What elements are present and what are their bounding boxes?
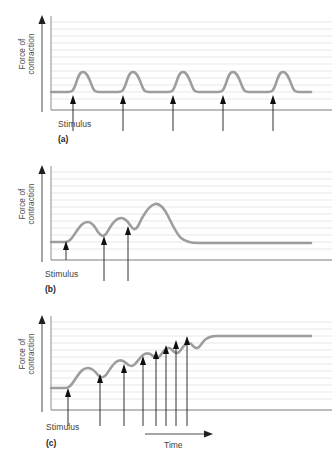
panel-c-plot bbox=[0, 300, 335, 458]
panel-b-wave-summation: Force of contraction Stimulus (b) bbox=[0, 150, 335, 300]
gridlines-c bbox=[51, 322, 332, 399]
stimulus-arrow bbox=[170, 95, 176, 131]
contraction-curve-c bbox=[51, 336, 311, 388]
stimulus-arrow bbox=[184, 336, 190, 426]
stimulus-arrow bbox=[121, 364, 127, 426]
contraction-curve-a bbox=[51, 72, 311, 92]
stimulus-arrow bbox=[153, 350, 159, 426]
y-axis-label-b: Force of contraction bbox=[18, 158, 36, 250]
time-axis-arrow bbox=[145, 431, 213, 438]
y-axis-label-c: Force of contraction bbox=[18, 308, 36, 400]
panel-tag-b: (b) bbox=[45, 284, 56, 294]
stimulus-arrow bbox=[270, 95, 276, 131]
stimulus-arrow bbox=[120, 95, 126, 131]
stimulus-arrow bbox=[97, 374, 103, 426]
y-axis-label-line1: Force of bbox=[18, 39, 27, 70]
stimulus-arrow bbox=[220, 95, 226, 131]
contraction-curve-b bbox=[51, 204, 311, 243]
force-direction-arrow-a bbox=[38, 15, 45, 112]
panel-tag-c: (c) bbox=[46, 438, 56, 448]
y-axis-label-line1: Force of bbox=[18, 339, 27, 370]
panel-tag-a: (a) bbox=[58, 134, 68, 144]
panel-c-tetanus: Force of contraction Stimulus (c) Time bbox=[0, 300, 335, 450]
gridlines-b bbox=[51, 172, 332, 249]
y-axis-label-line1: Force of bbox=[18, 189, 27, 220]
stimulus-arrow bbox=[140, 356, 146, 426]
stimulus-arrow bbox=[65, 388, 71, 426]
stimulus-label-c: Stimulus bbox=[46, 422, 79, 432]
stimulus-arrow bbox=[125, 226, 131, 281]
stimulus-arrow bbox=[63, 241, 69, 260]
stimulus-arrow bbox=[101, 236, 107, 281]
force-direction-arrow-c bbox=[38, 315, 45, 412]
panel-a-single-twitches: Force of contraction Stimulus (a) bbox=[0, 0, 335, 150]
y-axis-label-line2: contraction bbox=[27, 33, 36, 74]
muscle-contraction-figure: Force of contraction Stimulus (a) bbox=[0, 0, 335, 458]
panel-a-plot bbox=[0, 0, 335, 150]
y-axis-label-a: Force of contraction bbox=[18, 8, 36, 100]
x-axis-label-time: Time bbox=[164, 440, 183, 450]
stimulus-label-b: Stimulus bbox=[45, 269, 78, 279]
stimulus-arrows-a bbox=[70, 95, 276, 131]
y-axis-label-line2: contraction bbox=[27, 333, 36, 374]
y-axis-label-line2: contraction bbox=[27, 183, 36, 224]
force-direction-arrow-b bbox=[38, 165, 45, 262]
stimulus-label-a: Stimulus bbox=[58, 119, 91, 129]
